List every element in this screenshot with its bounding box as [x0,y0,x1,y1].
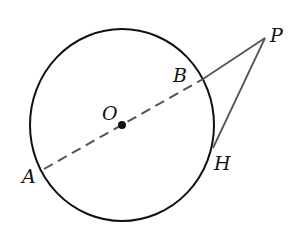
label-h: H [213,152,231,174]
geometry-diagram: O A B P H [0,0,303,233]
label-o: O [102,102,118,124]
center-point-o [118,121,126,129]
label-p: P [269,24,284,46]
label-b: B [172,64,187,86]
label-a: A [20,165,36,187]
